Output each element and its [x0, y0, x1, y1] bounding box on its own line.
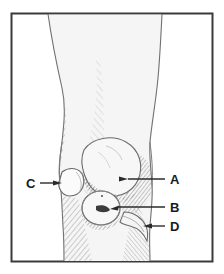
figure-container: A B C D — [0, 0, 224, 274]
lateral-bump — [59, 169, 84, 196]
callout-b-label: B — [170, 200, 179, 215]
swelling-dot — [101, 195, 103, 197]
callout-c-label: C — [26, 176, 36, 191]
callout-d-label: D — [170, 219, 179, 234]
knee-illustration: A B C D — [0, 0, 224, 274]
circular-swelling — [82, 191, 122, 230]
callout-a-label: A — [170, 172, 180, 187]
